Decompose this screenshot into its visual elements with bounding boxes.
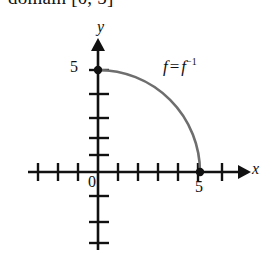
curve-equation-label: f=f−1 <box>163 56 197 77</box>
origin-label: 0 <box>88 173 96 191</box>
endpoint-0-5 <box>94 66 102 74</box>
coordinate-plot <box>0 0 273 259</box>
x-axis-arrowhead <box>238 165 251 179</box>
y-axis-arrowhead <box>91 38 105 51</box>
curve-label-equals: = <box>168 57 182 76</box>
curve-label-exponent: −1 <box>186 56 197 67</box>
endpoint-5-0 <box>196 168 204 176</box>
function-curve <box>98 70 200 172</box>
y-tick-label-5: 5 <box>70 58 78 76</box>
x-tick-label-5: 5 <box>195 178 203 196</box>
figure-container: domain [0, 5] <box>0 0 273 259</box>
x-axis-label: x <box>252 160 259 178</box>
y-axis-label: y <box>97 18 104 36</box>
